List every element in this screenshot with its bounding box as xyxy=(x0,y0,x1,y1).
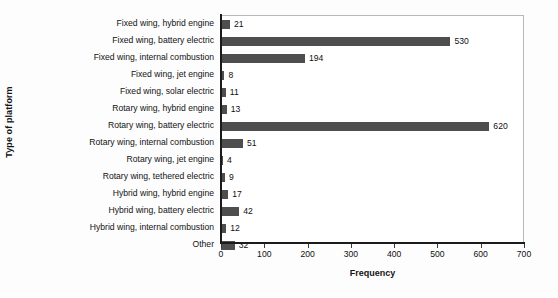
category-label: Fixed wing, battery electric xyxy=(112,32,214,49)
x-axis-tick-label: 600 xyxy=(474,249,488,259)
category-label: Fixed wing, solar electric xyxy=(120,83,214,100)
x-axis-tick-label: 200 xyxy=(300,249,314,259)
bar-value-label: 4 xyxy=(227,152,232,169)
x-axis-tick-label: 700 xyxy=(517,249,531,259)
x-axis-tick-mark xyxy=(264,244,265,248)
bar-value-label: 620 xyxy=(493,118,507,135)
bar xyxy=(221,190,228,199)
x-axis-tick-label: 400 xyxy=(387,249,401,259)
category-label: Hybrid wing, hybrid engine xyxy=(113,185,214,202)
y-axis-title: Type of platform xyxy=(0,0,18,243)
category-label: Hybrid wing, battery electric xyxy=(108,202,214,219)
bar-value-label: 51 xyxy=(247,135,257,152)
x-axis-tick-mark xyxy=(394,244,395,248)
category-label: Hybrid wing, internal combustion xyxy=(90,219,214,236)
bar-value-label: 21 xyxy=(234,16,244,33)
bar xyxy=(221,54,305,63)
category-label: Rotary wing, tethered electric xyxy=(103,168,214,185)
x-axis-title: Frequency xyxy=(221,268,524,278)
bar-value-label: 8 xyxy=(228,67,233,84)
category-label: Rotary wing, internal combustion xyxy=(89,134,214,151)
category-label: Fixed wing, jet engine xyxy=(131,66,214,83)
category-label: Rotary wing, hybrid engine xyxy=(112,100,214,117)
category-label: Rotary wing, jet engine xyxy=(127,151,214,168)
bar-value-label: 9 xyxy=(229,169,234,186)
bar xyxy=(221,122,489,131)
plot-area: 2153019481113620514917421232 xyxy=(221,15,524,243)
x-axis-tick-mark xyxy=(437,244,438,248)
x-axis-tick-label: 300 xyxy=(344,249,358,259)
bar-value-label: 42 xyxy=(243,203,253,220)
x-axis-spine xyxy=(220,242,525,244)
bar-value-label: 13 xyxy=(231,101,241,118)
bar xyxy=(221,37,450,46)
category-label: Rotary wing, battery electric xyxy=(108,117,214,134)
x-axis-tick-label: 0 xyxy=(219,249,224,259)
bar xyxy=(221,139,243,148)
bar-value-label: 32 xyxy=(239,237,249,254)
x-axis-tick-mark xyxy=(351,244,352,248)
bar-value-label: 11 xyxy=(230,84,239,101)
x-axis-tick-mark xyxy=(524,244,525,248)
x-axis-tick-mark xyxy=(481,244,482,248)
bar xyxy=(221,207,239,216)
y-axis-title-text: Type of platform xyxy=(4,86,14,157)
bar-chart: Type of platform Fixed wing, hybrid engi… xyxy=(0,0,558,298)
bar-value-label: 530 xyxy=(454,33,468,50)
x-axis-tick-mark xyxy=(308,244,309,248)
category-label: Fixed wing, hybrid engine xyxy=(117,15,214,32)
y-axis-spine xyxy=(220,14,222,244)
bar-value-label: 17 xyxy=(232,186,242,203)
bar-value-label: 194 xyxy=(309,50,323,67)
bar-value-label: 12 xyxy=(230,220,240,237)
category-label: Fixed wing, internal combustion xyxy=(94,49,214,66)
x-axis-tick-label: 500 xyxy=(430,249,444,259)
category-label: Other xyxy=(193,236,215,253)
category-label-column: Fixed wing, hybrid engineFixed wing, bat… xyxy=(18,15,218,243)
bar xyxy=(221,20,230,29)
x-axis-tick-mark xyxy=(221,244,222,248)
x-axis-tick-label: 100 xyxy=(257,249,271,259)
